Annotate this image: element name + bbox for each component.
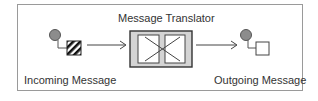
incoming-channel-node — [50, 30, 68, 49]
message-translator-icon — [130, 31, 192, 67]
outgoing-message-icon — [256, 42, 269, 55]
arrow-in-icon — [87, 41, 126, 49]
incoming-message-label: Incoming Message — [24, 74, 116, 86]
outgoing-message-label: Outgoing Message — [214, 74, 306, 86]
outgoing-channel-node — [241, 30, 257, 49]
translator-title: Message Translator — [118, 12, 215, 24]
arrow-out-icon — [196, 41, 237, 49]
incoming-message-icon — [67, 41, 81, 55]
